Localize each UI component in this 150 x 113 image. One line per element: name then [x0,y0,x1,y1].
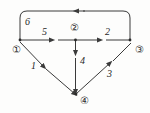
edge-weight-1-to-4: 1 [31,60,36,71]
node-label-3: ③ [132,43,146,57]
node-label-1: ① [9,43,23,57]
node-label-4: ④ [77,94,91,108]
edge-weight-2-to-3: 2 [105,26,110,37]
vertex-dot-2 [74,39,77,42]
vertex-dot-1 [19,39,22,42]
vertex-dot-3 [129,39,132,42]
edge-1-to-4 [20,42,75,94]
node-label-2: ② [67,21,81,35]
edge-4-to-3 [76,43,131,94]
edge-weight-3-to-1: 6 [25,16,30,27]
edge-weight-4-to-3: 3 [107,68,112,79]
edge-weight-1-to-2: 5 [42,26,47,37]
edge-weight-2-to-4: 4 [80,55,85,66]
graph-diagram-canvas: ① ② ③ ④ 6 5 2 1 4 3 [0,0,150,113]
